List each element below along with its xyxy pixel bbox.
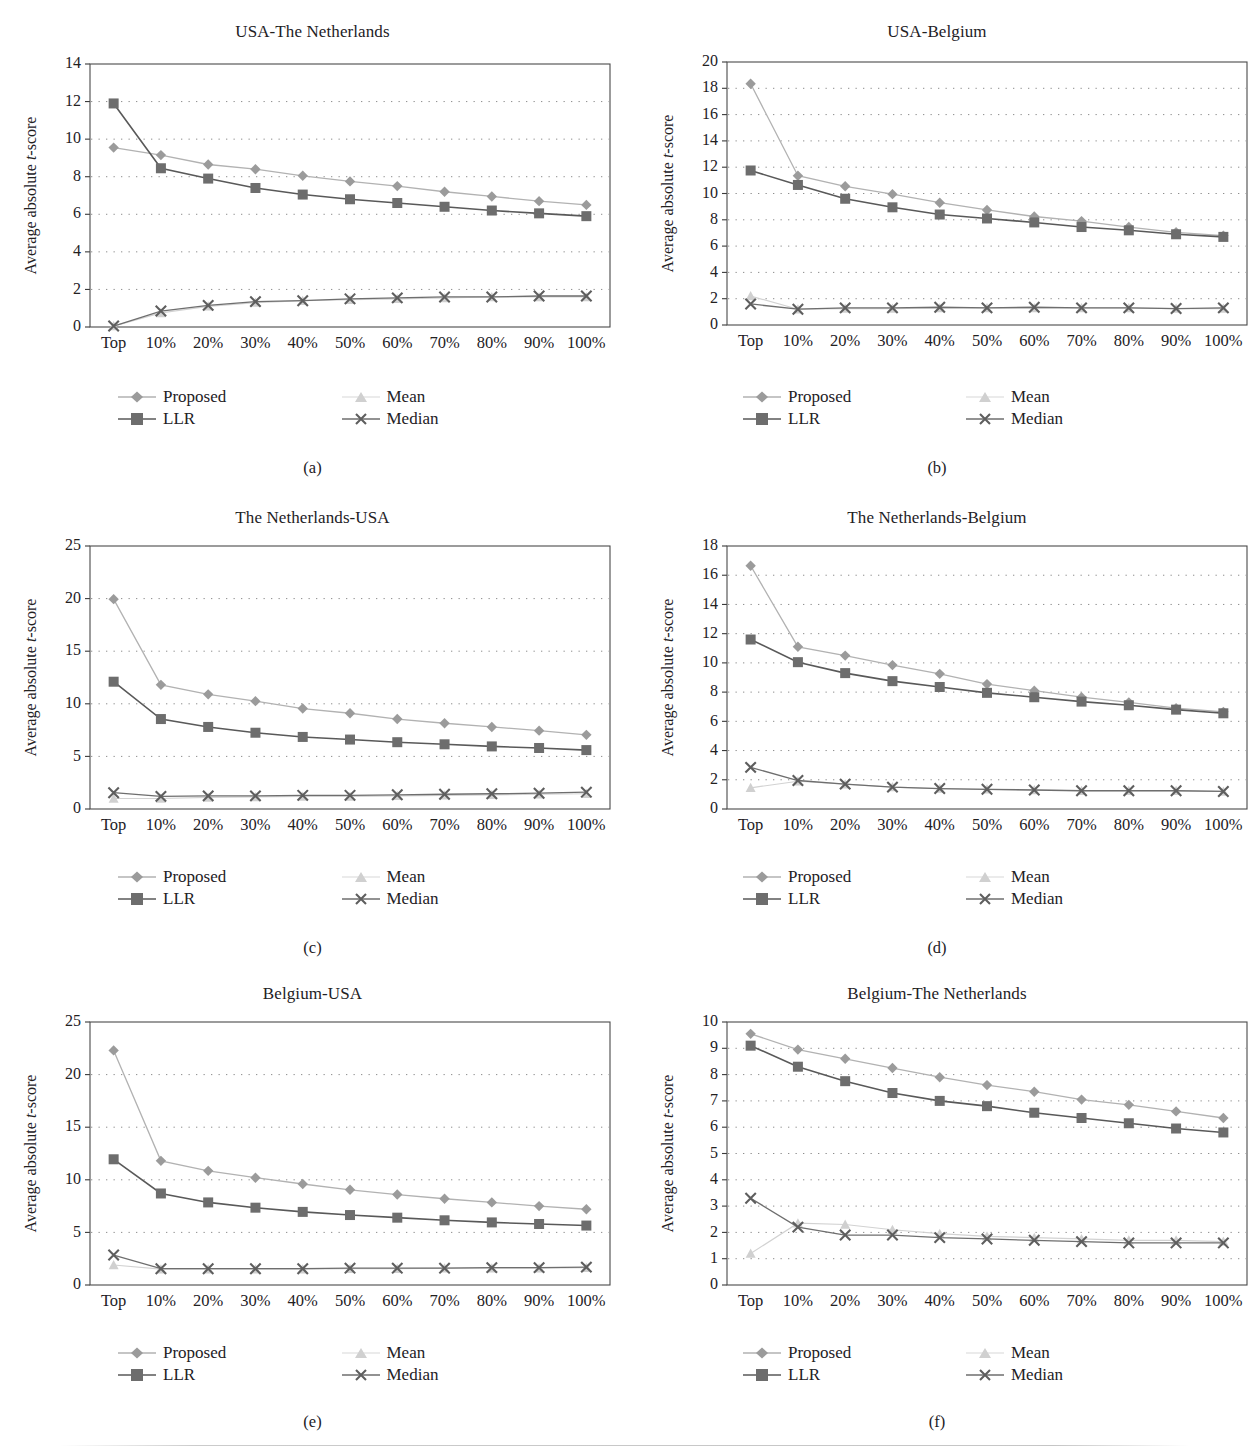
legend-marker-llr-icon: [118, 1368, 156, 1382]
legend-item-median[interactable]: Median: [342, 410, 566, 427]
legend-item-proposed[interactable]: Proposed: [743, 868, 966, 885]
legend-marker-mean-icon: [342, 390, 380, 404]
legend-label-llr: LLR: [788, 410, 820, 427]
legend-marker-mean-icon: [342, 1346, 380, 1360]
legend-item-proposed[interactable]: Proposed: [743, 388, 966, 405]
legend-item-proposed[interactable]: Proposed: [743, 1344, 966, 1361]
legend-item-median[interactable]: Median: [966, 890, 1189, 907]
svg-text:80%: 80%: [1114, 1291, 1145, 1310]
svg-text:0: 0: [73, 1275, 81, 1292]
svg-text:60%: 60%: [382, 333, 413, 352]
svg-text:90%: 90%: [524, 815, 555, 834]
chart-svg-c: Average absolute t-score0510152025Top10%…: [18, 538, 618, 838]
legend-marker-proposed-icon: [743, 870, 781, 884]
chart-panel-f: Belgium-The Netherlands Average absolute…: [625, 960, 1249, 1456]
svg-text:5: 5: [73, 1223, 81, 1240]
svg-text:0: 0: [710, 1275, 718, 1292]
legend-item-mean[interactable]: Mean: [966, 868, 1189, 885]
svg-text:90%: 90%: [1161, 331, 1192, 350]
svg-text:90%: 90%: [1161, 1291, 1192, 1310]
svg-text:90%: 90%: [1161, 815, 1192, 834]
legend-item-llr[interactable]: LLR: [743, 410, 966, 427]
legend-label-median: Median: [387, 890, 439, 907]
legend-label-mean: Mean: [387, 868, 426, 885]
svg-text:100%: 100%: [567, 333, 606, 352]
svg-text:Top: Top: [738, 331, 763, 350]
panel-title-c: The Netherlands-USA: [0, 508, 625, 528]
panel-caption-f: (f): [625, 1412, 1249, 1432]
legend-item-median[interactable]: Median: [342, 1366, 566, 1383]
svg-text:20%: 20%: [193, 1291, 224, 1310]
legend-item-proposed[interactable]: Proposed: [118, 868, 342, 885]
legend-item-llr[interactable]: LLR: [118, 890, 342, 907]
svg-text:Top: Top: [738, 1291, 763, 1310]
legend-b: Proposed Mean LLR Median: [625, 388, 1249, 427]
legend-item-median[interactable]: Median: [966, 410, 1189, 427]
legend-label-proposed: Proposed: [788, 388, 851, 405]
legend-item-mean[interactable]: Mean: [342, 868, 566, 885]
legend-label-llr: LLR: [163, 890, 195, 907]
svg-text:10: 10: [702, 1014, 718, 1029]
svg-text:2: 2: [710, 770, 718, 787]
chart-panel-a: USA-The Netherlands Average absolute t-s…: [0, 0, 625, 490]
legend-item-median[interactable]: Median: [966, 1366, 1189, 1383]
svg-text:8: 8: [710, 210, 718, 227]
chart-svg-d: Average absolute t-score024681012141618T…: [655, 538, 1249, 838]
panel-title-d: The Netherlands-Belgium: [625, 508, 1249, 528]
legend-marker-mean-icon: [966, 390, 1004, 404]
svg-text:12: 12: [702, 624, 718, 641]
legend-marker-llr-icon: [743, 412, 781, 426]
svg-text:Average absolute t-score: Average absolute t-score: [22, 599, 40, 757]
svg-text:Top: Top: [101, 333, 126, 352]
svg-text:10%: 10%: [783, 815, 814, 834]
legend-item-llr[interactable]: LLR: [743, 890, 966, 907]
legend-label-median: Median: [1011, 1366, 1063, 1383]
legend-marker-proposed-icon: [118, 390, 156, 404]
panel-caption-b: (b): [625, 458, 1249, 478]
svg-text:60%: 60%: [1019, 815, 1050, 834]
svg-text:50%: 50%: [972, 1291, 1003, 1310]
legend-marker-median-icon: [342, 892, 380, 906]
legend-item-proposed[interactable]: Proposed: [118, 1344, 342, 1361]
svg-text:16: 16: [702, 565, 718, 582]
svg-text:Average absolute t-score: Average absolute t-score: [22, 1075, 40, 1233]
svg-text:100%: 100%: [567, 1291, 606, 1310]
legend-item-mean[interactable]: Mean: [342, 1344, 566, 1361]
svg-text:14: 14: [702, 131, 718, 148]
svg-text:1: 1: [710, 1249, 718, 1266]
svg-text:40%: 40%: [288, 815, 319, 834]
legend-label-proposed: Proposed: [163, 1344, 226, 1361]
legend-item-proposed[interactable]: Proposed: [118, 388, 342, 405]
legend-marker-llr-icon: [118, 412, 156, 426]
legend-label-llr: LLR: [163, 1366, 195, 1383]
legend-item-llr[interactable]: LLR: [743, 1366, 966, 1383]
legend-label-median: Median: [387, 410, 439, 427]
legend-item-mean[interactable]: Mean: [342, 388, 566, 405]
svg-text:40%: 40%: [925, 815, 956, 834]
chart-panel-c: The Netherlands-USA Average absolute t-s…: [0, 490, 625, 960]
svg-text:10: 10: [65, 129, 81, 146]
chart-svg-a: Average absolute t-score02468101214Top10…: [18, 56, 618, 356]
legend-label-median: Median: [1011, 890, 1063, 907]
legend-item-llr[interactable]: LLR: [118, 1366, 342, 1383]
svg-text:80%: 80%: [1114, 331, 1145, 350]
panel-caption-c: (c): [0, 938, 625, 958]
legend-label-proposed: Proposed: [163, 388, 226, 405]
legend-item-mean[interactable]: Mean: [966, 1344, 1189, 1361]
plot-area-c: Average absolute t-score0510152025Top10%…: [18, 538, 618, 838]
svg-text:8: 8: [710, 1065, 718, 1082]
legend-label-proposed: Proposed: [788, 868, 851, 885]
legend-item-median[interactable]: Median: [342, 890, 566, 907]
svg-text:80%: 80%: [1114, 815, 1145, 834]
svg-text:Average absolute t-score: Average absolute t-score: [659, 115, 677, 273]
legend-item-mean[interactable]: Mean: [966, 388, 1189, 405]
legend-item-llr[interactable]: LLR: [118, 410, 342, 427]
svg-text:7: 7: [710, 1091, 718, 1108]
legend-marker-median-icon: [342, 1368, 380, 1382]
svg-text:4: 4: [73, 242, 81, 259]
legend-marker-proposed-icon: [118, 870, 156, 884]
svg-text:10%: 10%: [146, 333, 177, 352]
svg-text:Top: Top: [101, 815, 126, 834]
plot-area-f: Average absolute t-score012345678910Top1…: [655, 1014, 1249, 1314]
svg-text:6: 6: [710, 1117, 718, 1134]
